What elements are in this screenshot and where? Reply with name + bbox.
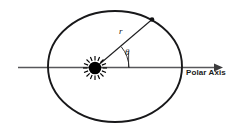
polar-orbit-diagram: Polar Axis r θ [0,0,230,139]
orbit-point-marker [150,17,155,22]
sun-core [89,62,102,75]
radius-vector-line [95,20,152,69]
polar-axis-label: Polar Axis [186,69,226,77]
angle-theta-label: θ [125,48,129,57]
orbit-ellipse [48,11,182,122]
radius-label: r [119,27,123,36]
